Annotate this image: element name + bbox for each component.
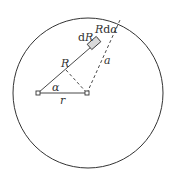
point-field	[85, 91, 89, 95]
label-R: R	[60, 57, 69, 70]
point-origin	[36, 91, 40, 95]
label-a: a	[104, 54, 111, 67]
perpendicular-dashed	[66, 70, 87, 93]
radius-line-R	[38, 47, 91, 93]
label-dR: dR	[78, 31, 93, 44]
label-alpha: α	[52, 81, 60, 94]
diagram-canvas: dR Rdα R a α r	[0, 0, 171, 180]
label-Rdalpha: Rdα	[94, 23, 118, 36]
label-r: r	[60, 94, 66, 107]
